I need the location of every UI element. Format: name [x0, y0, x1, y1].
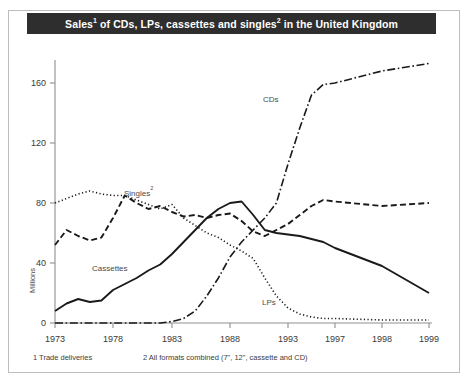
- lps-label: LPs: [262, 298, 276, 307]
- series-line-cds: [55, 64, 429, 324]
- series-lines: [55, 64, 429, 324]
- x-tick-label: 1988: [220, 334, 240, 344]
- x-tick-label: 1998: [372, 334, 392, 344]
- cds-label: CDs: [263, 95, 279, 104]
- chart-footnotes: 1 Trade deliveries2 All formats combined…: [33, 353, 308, 362]
- x-tick-label: 1993: [278, 334, 298, 344]
- y-tick-label: 80: [36, 198, 46, 208]
- x-tick-label: 1997: [325, 334, 345, 344]
- y-axis-title: Millions: [28, 268, 37, 293]
- series-inline-labels: Singles2CDsCassettesLPs: [92, 95, 279, 307]
- y-tick-label: 40: [36, 258, 46, 268]
- y-tick-label: 120: [31, 138, 46, 148]
- footnote-2: 2 All formats combined (7", 12", cassett…: [143, 353, 308, 362]
- series-line-lps: [55, 191, 429, 320]
- singles-label: Singles2: [124, 185, 153, 198]
- x-tick-label: 1999: [419, 334, 439, 344]
- x-tick-label: 1978: [103, 334, 123, 344]
- line-chart: 04080120160 1973197819831988199319971998…: [0, 0, 469, 383]
- series-line-cassettes: [55, 202, 429, 312]
- y-tick-label: 0: [41, 318, 46, 328]
- footnote-1: 1 Trade deliveries: [33, 353, 92, 362]
- x-tick-labels: 19731978198319881993199719981999: [45, 334, 439, 344]
- cassettes-label: Cassettes: [92, 264, 128, 273]
- x-tick-label: 1973: [45, 334, 65, 344]
- chart-page: Sales1 of CDs, LPs, cassettes and single…: [0, 0, 469, 383]
- x-tick-label: 1983: [162, 334, 182, 344]
- y-tick-label: 160: [31, 78, 46, 88]
